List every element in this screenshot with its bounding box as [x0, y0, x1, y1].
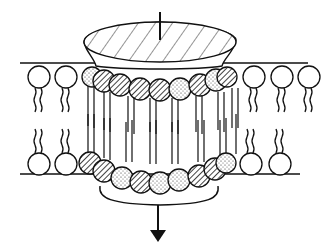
lipid-group-top-left [28, 66, 77, 112]
lipid-group-bottom-left [28, 129, 77, 175]
channel-top-ring [82, 67, 237, 101]
arrow-down-icon [150, 205, 166, 242]
lipid-group-top-right [243, 66, 320, 112]
channel-bottom-ring [79, 152, 236, 194]
diagram-canvas [0, 0, 323, 251]
channel-top-cap [84, 12, 236, 69]
membrane-channel-diagram [0, 0, 323, 251]
channel-tails-lower [88, 114, 236, 164]
lipid-group-bottom-right [240, 129, 291, 175]
